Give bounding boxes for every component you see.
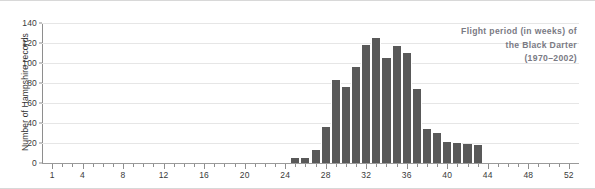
x-tick-mark	[508, 164, 509, 167]
bar	[331, 80, 341, 163]
x-tick-mark	[113, 164, 114, 167]
x-tick-label: 44	[483, 170, 493, 180]
x-tick-mark	[194, 164, 195, 167]
x-tick-mark	[559, 164, 560, 167]
chart-figure: Number of Hampshire records 020406080100…	[0, 0, 595, 189]
x-tick-mark	[376, 164, 377, 167]
x-tick-mark	[204, 164, 205, 169]
x-tick-mark	[143, 164, 144, 167]
x-tick-mark	[447, 164, 448, 169]
x-tick-mark	[518, 164, 519, 167]
bar	[473, 145, 483, 163]
x-tick-label: 24	[280, 170, 290, 180]
x-tick-mark	[265, 164, 266, 167]
x-tick-label: 52	[564, 170, 574, 180]
x-tick-mark	[285, 164, 286, 169]
x-tick-label: 36	[402, 170, 412, 180]
x-tick-mark	[326, 164, 327, 169]
x-tick-label: 32	[361, 170, 371, 180]
x-tick-mark	[316, 164, 317, 167]
x-tick-mark	[305, 164, 306, 167]
x-tick-mark	[255, 164, 256, 167]
bar	[321, 127, 331, 163]
x-tick-label: 20	[240, 170, 250, 180]
x-tick-mark	[133, 164, 134, 167]
x-tick-label: 28	[321, 170, 331, 180]
chart-title-line-3: (1970–2002)	[461, 52, 577, 66]
x-tick-mark	[427, 164, 428, 167]
x-tick-mark	[488, 164, 489, 169]
x-tick-mark	[386, 164, 387, 167]
bar	[462, 144, 472, 163]
chart-title-line-2: the Black Darter	[461, 39, 577, 53]
x-tick-mark	[62, 164, 63, 167]
bar	[412, 89, 422, 163]
x-tick-mark	[123, 164, 124, 169]
x-tick-mark	[346, 164, 347, 167]
bar	[392, 46, 402, 163]
x-tick-label: 16	[199, 170, 209, 180]
x-tick-mark	[224, 164, 225, 167]
x-tick-mark	[397, 164, 398, 167]
x-tick-mark	[538, 164, 539, 167]
x-tick-mark	[164, 164, 165, 169]
x-tick-mark	[235, 164, 236, 167]
bar	[371, 38, 381, 163]
x-tick-label: 8	[121, 170, 126, 180]
x-tick-label: 40	[442, 170, 452, 180]
x-tick-label: 12	[159, 170, 169, 180]
x-tick-mark	[52, 164, 53, 169]
x-tick-mark	[214, 164, 215, 167]
x-tick-mark	[407, 164, 408, 169]
x-tick-mark	[174, 164, 175, 167]
x-tick-mark	[356, 164, 357, 167]
bar	[311, 150, 321, 163]
bar	[402, 53, 412, 163]
x-tick-mark	[549, 164, 550, 167]
x-tick-mark	[417, 164, 418, 167]
x-tick-mark	[93, 164, 94, 167]
bar	[432, 133, 442, 163]
bar	[341, 87, 351, 163]
x-tick-mark	[498, 164, 499, 167]
bar	[300, 158, 310, 163]
bar	[422, 129, 432, 163]
x-tick-mark	[295, 164, 296, 167]
x-tick-mark	[153, 164, 154, 167]
bar	[290, 158, 300, 163]
x-tick-mark	[569, 164, 570, 169]
chart-title: Flight period (in weeks) of the Black Da…	[461, 25, 577, 66]
x-tick-mark	[437, 164, 438, 167]
x-tick-mark	[245, 164, 246, 169]
bar	[452, 143, 462, 163]
x-tick-mark	[336, 164, 337, 167]
bar	[351, 67, 361, 163]
x-tick-label: 1	[50, 170, 55, 180]
x-tick-mark	[72, 164, 73, 167]
x-tick-mark	[366, 164, 367, 169]
bar	[381, 58, 391, 163]
x-tick-mark	[457, 164, 458, 167]
x-tick-label: 48	[523, 170, 533, 180]
x-tick-label: 4	[80, 170, 85, 180]
x-tick-mark	[184, 164, 185, 167]
x-tick-mark	[478, 164, 479, 167]
x-tick-mark	[528, 164, 529, 169]
bar	[361, 45, 371, 163]
x-tick-mark	[275, 164, 276, 167]
x-tick-mark	[468, 164, 469, 167]
x-tick-mark	[83, 164, 84, 169]
chart-title-line-1: Flight period (in weeks) of	[461, 25, 577, 39]
bar	[442, 142, 452, 163]
x-tick-mark	[103, 164, 104, 167]
